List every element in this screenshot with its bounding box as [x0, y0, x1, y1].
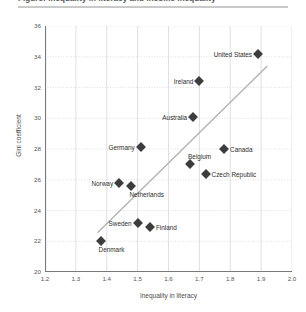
x-tick-label: 1.4	[94, 275, 120, 282]
data-point-label: Denmark	[99, 246, 125, 253]
plot-area: United StatesIrelandAustraliaGermanyCana…	[45, 26, 292, 272]
x-tick-label: 2.0	[279, 275, 305, 282]
title-divider	[18, 6, 288, 8]
data-point-label: Norway	[91, 179, 113, 186]
x-axis-title: Inequality in literacy	[45, 292, 292, 299]
y-tick-label: 26	[19, 177, 41, 183]
data-point-label: Finland	[156, 224, 177, 231]
x-axis-ticks: 1.21.31.41.51.61.71.81.92.0	[45, 275, 292, 285]
data-point-label: Ireland	[174, 78, 194, 85]
chart-title: Figure: Inequality in literacy and incom…	[18, 0, 288, 4]
y-tick-label: 34	[19, 54, 41, 60]
y-axis-ticks: 363432302826242220	[19, 26, 41, 272]
x-tick-label: 1.6	[156, 275, 182, 282]
chart-figure: Figure: Inequality in literacy and incom…	[0, 0, 306, 312]
plot-canvas	[45, 26, 292, 272]
y-tick-label: 24	[19, 208, 41, 214]
data-point-label: Germany	[108, 144, 134, 151]
data-point-label: Netherlands	[129, 191, 163, 198]
data-point-label: Sweden	[109, 219, 132, 226]
y-tick-label: 28	[19, 146, 41, 152]
y-tick-label: 30	[19, 115, 41, 121]
x-tick-label: 1.9	[248, 275, 274, 282]
chart-title-clip: Figure: Inequality in literacy and incom…	[18, 0, 288, 4]
x-tick-label: 1.7	[186, 275, 212, 282]
y-tick-label: 22	[19, 238, 41, 244]
x-tick-label: 1.2	[32, 275, 58, 282]
y-tick-label: 32	[19, 85, 41, 91]
y-tick-label: 36	[19, 23, 41, 29]
x-tick-label: 1.8	[217, 275, 243, 282]
data-point-label: Australia	[162, 113, 187, 120]
data-point-label: Czech Republic	[212, 170, 257, 177]
data-point-label: United States	[214, 50, 252, 57]
x-tick-label: 1.3	[63, 275, 89, 282]
data-point-label: Belgium	[188, 153, 211, 160]
data-point-label: Canada	[230, 146, 252, 153]
gridlines	[45, 26, 292, 272]
x-tick-label: 1.5	[125, 275, 151, 282]
